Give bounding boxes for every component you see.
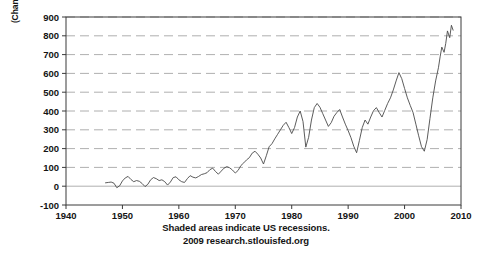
line-chart-plot: -100010020030040050060070080090019401950… — [0, 0, 492, 256]
x-tick-label: 1970 — [225, 210, 246, 221]
x-tick-label: 1950 — [112, 210, 133, 221]
x-tick-label: 1990 — [338, 210, 359, 221]
x-tick-label: 2000 — [394, 210, 415, 221]
y-tick-label: 500 — [43, 87, 59, 98]
chart-caption-recessions: Shaded areas indicate US recessions. — [0, 222, 492, 233]
chart-figure: (Change from year ago, billions of dolla… — [0, 0, 492, 256]
y-tick-label: 200 — [43, 143, 59, 154]
x-tick-label: 2010 — [450, 210, 471, 221]
y-tick-label: 900 — [43, 12, 59, 23]
y-tick-label: 0 — [54, 181, 59, 192]
y-tick-label: 100 — [43, 162, 59, 173]
x-tick-label: 1940 — [55, 210, 76, 221]
y-tick-label: 600 — [43, 68, 59, 79]
y-axis-title: (Change from year ago, billions of dolla… — [6, 0, 24, 35]
y-tick-label: -100 — [40, 200, 59, 211]
chart-caption-source: 2009 research.stlouisfed.org — [0, 235, 492, 246]
x-tick-label: 1960 — [168, 210, 189, 221]
y-tick-label: 800 — [43, 30, 59, 41]
y-tick-label: 700 — [43, 49, 59, 60]
y-tick-label: 400 — [43, 106, 59, 117]
y-tick-label: 300 — [43, 124, 59, 135]
x-tick-label: 1980 — [281, 210, 302, 221]
